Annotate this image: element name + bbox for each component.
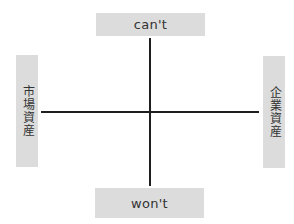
bottom-axis-label: won't [131, 196, 168, 211]
horizontal-axis-line [41, 111, 259, 113]
top-axis-label-box: can't [96, 13, 205, 36]
top-axis-label: can't [134, 17, 168, 32]
left-axis-label-box: 市場資産 [16, 55, 38, 167]
bottom-axis-label-box: won't [95, 188, 204, 218]
right-axis-label: 企業資産 [268, 86, 280, 138]
left-axis-label: 市場資産 [21, 85, 33, 137]
right-axis-label-box: 企業資産 [263, 56, 285, 168]
